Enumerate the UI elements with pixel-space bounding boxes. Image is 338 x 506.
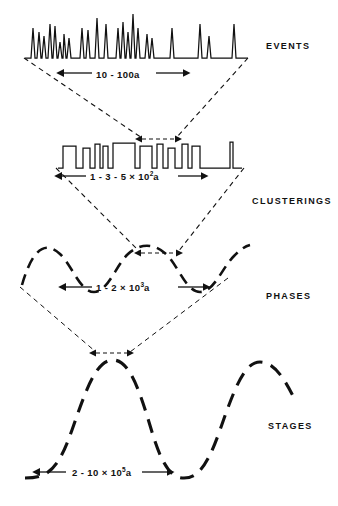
scale-mantissa-phases: 1 - 2 × 10: [96, 282, 140, 293]
events-waveform: [25, 14, 248, 58]
scale-unit-clusterings: a: [153, 171, 159, 182]
tier-label-phases: PHASES: [266, 291, 311, 301]
tier-label-events: EVENTS: [266, 41, 310, 51]
scale-caption-stages: 2 - 10 × 105a: [72, 466, 131, 478]
scale-unit-events: a: [134, 69, 140, 80]
stages-waveform: [25, 360, 294, 478]
scale-mantissa-events: 10 - 100: [96, 69, 134, 80]
scale-caption-events: 10 - 100a: [96, 68, 140, 80]
scale-mantissa-stages: 2 - 10 × 10: [72, 467, 122, 478]
scale-mantissa-clusterings: 1 - 3 - 5 × 10: [90, 171, 150, 182]
tier-label-clusterings: CLUSTERINGS: [252, 196, 332, 206]
scale-caption-clusterings: 1 - 3 - 5 × 102a: [90, 170, 159, 182]
scale-unit-stages: a: [126, 467, 132, 478]
scale-caption-phases: 1 - 2 × 103a: [96, 281, 150, 293]
scale-unit-phases: a: [144, 282, 150, 293]
tier-label-stages: STAGES: [268, 421, 313, 431]
clusterings-waveform: [58, 142, 242, 168]
